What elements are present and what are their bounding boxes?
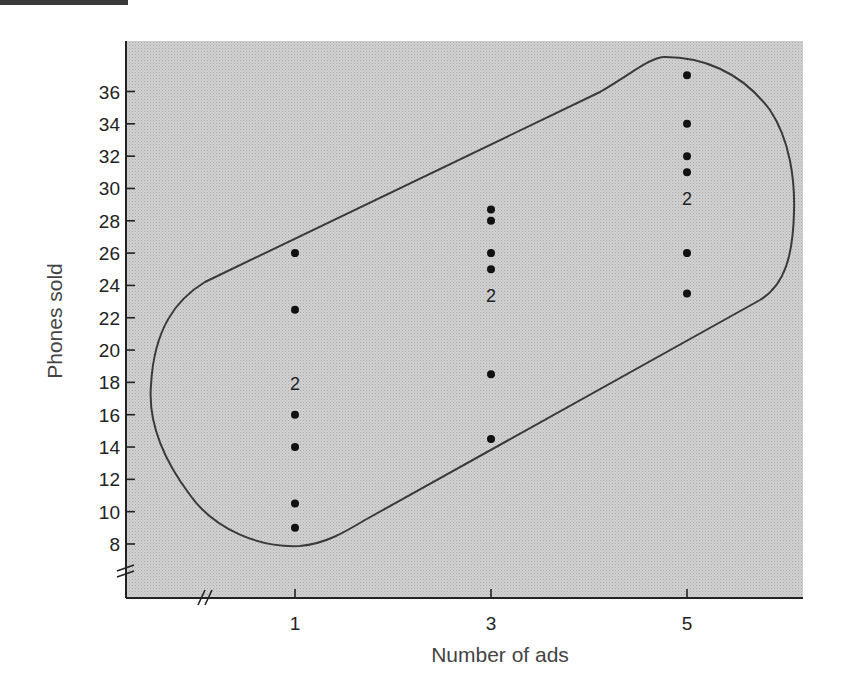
y-tick-label: 18: [99, 372, 120, 393]
y-tick-label: 34: [99, 114, 121, 135]
data-point: [487, 435, 495, 443]
plot-area: [126, 41, 803, 598]
y-tick-label: 14: [99, 437, 121, 458]
y-tick-label: 24: [99, 275, 121, 296]
y-tick-label: 8: [109, 534, 120, 555]
x-tick-label: 1: [290, 613, 301, 634]
data-point: [487, 205, 495, 213]
x-tick-label: 3: [486, 613, 497, 634]
plot-background: [126, 41, 803, 598]
y-tick-label: 20: [99, 340, 120, 361]
data-point: [291, 306, 299, 314]
data-point: [683, 152, 691, 160]
data-point: [487, 265, 495, 273]
data-point: [487, 217, 495, 225]
y-tick-label: 28: [99, 211, 120, 232]
data-point: [683, 120, 691, 128]
y-axis-title: Phones sold: [43, 263, 66, 379]
scatter-chart: 81012141618202224262830323436 135 222 Nu…: [0, 0, 846, 699]
point-count-label: 2: [486, 286, 496, 306]
y-tick-label: 36: [99, 82, 120, 103]
data-point: [487, 249, 495, 257]
x-tick-label: 5: [682, 613, 693, 634]
data-point: [291, 249, 299, 257]
data-point: [291, 411, 299, 419]
data-point: [683, 290, 691, 298]
data-point: [291, 524, 299, 532]
y-tick-label: 10: [99, 502, 120, 523]
y-tick-label: 32: [99, 146, 120, 167]
data-point: [683, 249, 691, 257]
point-count-label: 2: [682, 189, 692, 209]
point-count-label: 2: [290, 374, 300, 394]
y-tick-label: 12: [99, 469, 120, 490]
data-point: [487, 370, 495, 378]
data-point: [291, 500, 299, 508]
y-tick-label: 30: [99, 178, 120, 199]
data-point: [683, 168, 691, 176]
x-axis-title: Number of ads: [431, 643, 569, 666]
data-point: [291, 443, 299, 451]
y-tick-label: 22: [99, 308, 120, 329]
y-tick-label: 16: [99, 405, 120, 426]
y-tick-label: 26: [99, 243, 120, 264]
data-point: [683, 71, 691, 79]
